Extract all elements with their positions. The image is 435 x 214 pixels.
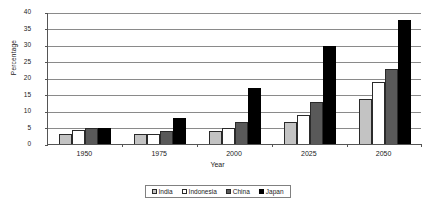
bar-india-1950 <box>59 134 72 144</box>
bar-japan-2000 <box>248 88 261 144</box>
bar-india-2000 <box>209 131 222 144</box>
y-tick-label: 20 <box>9 75 31 82</box>
y-tick-label: 30 <box>9 42 31 49</box>
y-tick-label: 15 <box>9 92 31 99</box>
legend-label: China <box>233 188 250 195</box>
x-tick-label: 2025 <box>279 150 339 157</box>
plot-area: 0510152025303540 <box>47 13 421 145</box>
y-tick-label: 35 <box>9 26 31 33</box>
bar-japan-1975 <box>173 118 186 144</box>
bar-indonesia-2000 <box>222 128 235 144</box>
bar-group-bars <box>48 13 123 144</box>
legend-swatch-icon <box>259 189 264 194</box>
legend-swatch-icon <box>182 189 187 194</box>
legend-label: Indonesia <box>189 188 217 195</box>
bar-india-2025 <box>284 122 297 144</box>
bar-indonesia-2050 <box>372 82 385 144</box>
bar-group <box>347 13 422 144</box>
legend-item-japan[interactable]: Japan <box>259 188 284 195</box>
y-tick-label: 25 <box>9 59 31 66</box>
bar-group-bars <box>272 13 347 144</box>
bar-indonesia-1975 <box>147 134 160 144</box>
bar-china-2000 <box>235 122 248 144</box>
legend-swatch-icon <box>226 189 231 194</box>
x-tick-mark <box>197 144 198 147</box>
x-tick-mark <box>347 144 348 147</box>
bar-indonesia-2025 <box>297 115 310 144</box>
bar-china-1950 <box>85 128 98 145</box>
legend-swatch-icon <box>151 189 156 194</box>
bar-group-bars <box>123 13 198 144</box>
bar-group <box>272 13 347 144</box>
y-tick-mark <box>45 145 48 146</box>
y-tick-label: 5 <box>9 125 31 132</box>
chart-legend: IndiaIndonesiaChinaJapan <box>144 185 290 198</box>
x-tick-mark <box>272 144 273 147</box>
bar-group-bars <box>198 13 273 144</box>
bar-group <box>198 13 273 144</box>
bar-group <box>123 13 198 144</box>
x-tick-mark <box>122 144 123 147</box>
legend-label: Japan <box>266 188 284 195</box>
bar-japan-2025 <box>323 46 336 144</box>
bar-japan-1950 <box>98 128 111 144</box>
y-tick-label: 0 <box>9 141 31 148</box>
x-tick-label: 1975 <box>129 150 189 157</box>
bar-india-2050 <box>359 99 372 144</box>
bar-china-2050 <box>385 69 398 144</box>
bar-china-1975 <box>160 131 173 144</box>
bar-indonesia-1950 <box>72 130 85 144</box>
x-tick-label: 2050 <box>354 150 414 157</box>
bar-group <box>48 13 123 144</box>
legend-item-india[interactable]: India <box>151 188 172 195</box>
x-tick-mark <box>421 144 422 147</box>
x-tick-label: 1950 <box>54 150 114 157</box>
x-tick-label: 2000 <box>204 150 264 157</box>
legend-label: India <box>158 188 172 195</box>
bar-china-2025 <box>310 102 323 144</box>
y-tick-label: 10 <box>9 108 31 115</box>
legend-item-china[interactable]: China <box>226 188 250 195</box>
bar-india-1975 <box>134 134 147 144</box>
legend-item-indonesia[interactable]: Indonesia <box>182 188 217 195</box>
bar-japan-2050 <box>398 20 411 144</box>
y-tick-label: 40 <box>9 9 31 16</box>
bar-group-bars <box>347 13 422 144</box>
bar-chart: Percentage 0510152025303540 195019752000… <box>0 0 435 214</box>
x-axis-title: Year <box>0 161 435 168</box>
